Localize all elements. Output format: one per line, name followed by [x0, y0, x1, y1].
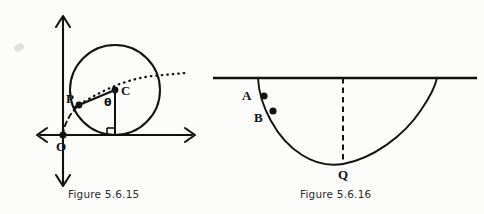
- dotted-curve-through-P-C: [75, 73, 186, 107]
- label-P: P: [66, 92, 74, 105]
- label-Q: Q: [338, 168, 348, 181]
- figure-sheet: P C θ O A B Q Figure 5.6.15 Figure 5.6.1…: [0, 0, 484, 214]
- point-A-dot: [260, 92, 267, 99]
- label-A: A: [242, 89, 251, 102]
- point-B-dot: [269, 107, 276, 114]
- label-B: B: [254, 111, 263, 124]
- cycloid-arc: [258, 78, 437, 165]
- point-P-dot: [76, 102, 83, 109]
- caption-figure-5-6-16: Figure 5.6.16: [300, 188, 371, 200]
- label-theta: θ: [104, 97, 112, 108]
- point-O-dot: [59, 131, 66, 138]
- figure-5-6-16-drawing: [213, 78, 477, 165]
- caption-figure-5-6-15: Figure 5.6.15: [68, 188, 139, 200]
- figures-drawing: [0, 0, 484, 214]
- label-O: O: [56, 140, 66, 153]
- label-C: C: [121, 84, 130, 97]
- figure-5-6-15-drawing: [37, 16, 195, 186]
- point-C-dot: [112, 87, 119, 94]
- cycloid-dashed-arc: [63, 105, 79, 135]
